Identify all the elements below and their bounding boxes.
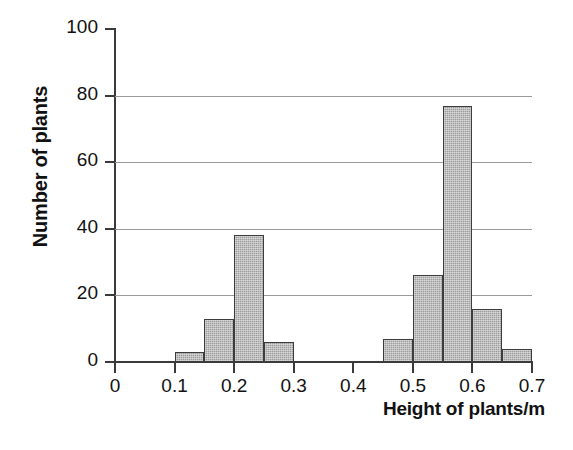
bar-0.10-0.15 (175, 352, 205, 362)
bar-0.60-0.65 (472, 309, 502, 362)
gridline-80 (115, 96, 532, 97)
x-tick-mark-0.7 (531, 362, 533, 373)
x-tick-mark-0.1 (174, 362, 176, 373)
y-tick-label-80: 80 (28, 83, 98, 105)
x-tick-label-0.4: 0.4 (323, 375, 383, 397)
x-tick-mark-0.5 (412, 362, 414, 373)
x-tick-mark-0.3 (293, 362, 295, 373)
x-tick-label-0.5: 0.5 (383, 375, 443, 397)
x-tick-label-0: 0 (85, 375, 145, 397)
bar-0.20-0.25 (234, 235, 264, 362)
x-axis-title: Height of plants/m (0, 398, 545, 420)
x-tick-label-0.1: 0.1 (145, 375, 205, 397)
y-tick-label-40: 40 (28, 216, 98, 238)
bar-0.65-0.70 (502, 349, 532, 362)
x-tick-mark-0.6 (471, 362, 473, 373)
x-tick-label-0.3: 0.3 (264, 375, 324, 397)
bar-0.45-0.50 (383, 339, 413, 362)
x-tick-mark-0.4 (352, 362, 354, 373)
plot-area (115, 29, 532, 362)
y-tick-label-100: 100 (28, 16, 98, 38)
bar-0.55-0.60 (443, 106, 473, 362)
x-tick-label-0.2: 0.2 (204, 375, 264, 397)
bar-0.50-0.55 (413, 275, 443, 362)
histogram-chart: Number of plants Height of plants/m 0204… (0, 0, 573, 450)
bar-0.15-0.20 (204, 319, 234, 362)
y-tick-label-20: 20 (28, 282, 98, 304)
x-tick-mark-0.2 (233, 362, 235, 373)
x-tick-mark-0 (114, 362, 116, 373)
bar-0.25-0.30 (264, 342, 294, 362)
y-tick-label-60: 60 (28, 149, 98, 171)
x-tick-label-0.7: 0.7 (502, 375, 562, 397)
y-tick-label-0: 0 (28, 349, 98, 371)
x-tick-label-0.6: 0.6 (442, 375, 502, 397)
